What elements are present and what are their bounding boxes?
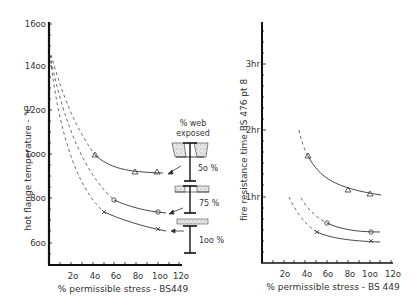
left-x-tick-label: 6o <box>111 271 122 281</box>
left-y-tick-label: 16oo <box>25 19 46 29</box>
right-x-tick-label: 8o <box>345 269 356 279</box>
left-y-axis-title: hot flange temperature - °C <box>23 106 33 231</box>
legend-title-line1: % web <box>180 119 207 128</box>
right-chart: 1hr 2hr 3hr 2o 4o 6o 8o 1oo 12o % permis… <box>239 22 401 292</box>
right-x-tick-label: 12o <box>385 269 401 279</box>
left-y-tick-label: 6oo <box>30 238 46 248</box>
right-dashed-extensions <box>289 130 327 232</box>
right-y-axis-title: fire resistance time BS 476 pt 8 <box>239 79 249 222</box>
right-y-tick-label: 3hr <box>246 59 261 69</box>
legend-label-100: 1oo % <box>199 236 224 245</box>
left-dashed-extensions <box>50 55 114 212</box>
right-x-tick-label: 4o <box>302 269 313 279</box>
left-x-tick-label: 2o <box>68 271 79 281</box>
left-x-tick-label: 4o <box>90 271 101 281</box>
right-x-tick-label: 2o <box>280 269 291 279</box>
i-beam-50-icon <box>172 143 208 181</box>
left-x-tick-label: 12o <box>173 271 189 281</box>
right-markers-75 <box>325 221 373 234</box>
left-chart: 6oo 8oo 1ooo 12oo 14oo 16oo 2o 4o 6o 8o … <box>23 19 224 294</box>
legend-title-line2: exposed <box>176 129 210 138</box>
left-x-axis-title: % permissible stress - BS449 <box>58 284 189 294</box>
chart-canvas: 6oo 8oo 1ooo 12oo 14oo 16oo 2o 4o 6o 8o … <box>0 0 420 308</box>
left-solid-curves <box>95 155 166 231</box>
left-y-tick-label: 14oo <box>25 61 46 71</box>
left-x-tick-label: 1oo <box>152 271 168 281</box>
right-x-tick-label: 1oo <box>362 269 378 279</box>
legend-label-75: 75 % <box>199 199 220 208</box>
legend-label-50: 5o % <box>198 164 219 173</box>
left-x-tick-label: 8o <box>133 271 144 281</box>
right-x-tick-label: 6o <box>323 269 334 279</box>
right-x-axis-title: % permissible stress - BS 449 <box>266 282 400 292</box>
left-markers-50 <box>92 152 160 174</box>
right-markers-50 <box>305 153 373 196</box>
right-solid-curves <box>308 156 381 242</box>
